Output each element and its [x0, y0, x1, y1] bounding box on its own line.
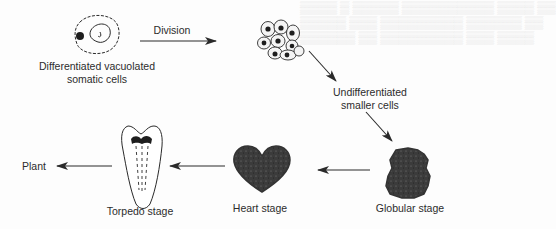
cell-cluster-icon: [258, 20, 305, 60]
torpedo-stage-label: Torpedo stage: [100, 205, 180, 218]
undiff-label-line1: Undifferentiated: [320, 86, 420, 99]
undifferentiated-cells-label: Undifferentiated smaller cells: [320, 86, 420, 112]
heart-stage-label: Heart stage: [220, 202, 300, 215]
somatic-label-line2: somatic cells: [27, 73, 167, 86]
globular-embryo-icon: [386, 148, 430, 198]
undiff-to-globular-arrow: [366, 112, 392, 141]
cluster-to-undiff-arrow: [309, 51, 336, 81]
globular-stage-label: Globular stage: [365, 202, 455, 215]
somatic-label-line1: Differentiated vacuolated: [27, 60, 167, 73]
vacuolated-cell-icon: [75, 15, 119, 53]
torpedo-embryo-icon: [122, 126, 163, 209]
division-label: Division: [147, 24, 197, 37]
heart-embryo-icon: [234, 146, 290, 192]
undiff-label-line2: smaller cells: [320, 99, 420, 112]
somatic-cells-label: Differentiated vacuolated somatic cells: [27, 60, 167, 86]
plant-label: Plant: [22, 160, 52, 173]
